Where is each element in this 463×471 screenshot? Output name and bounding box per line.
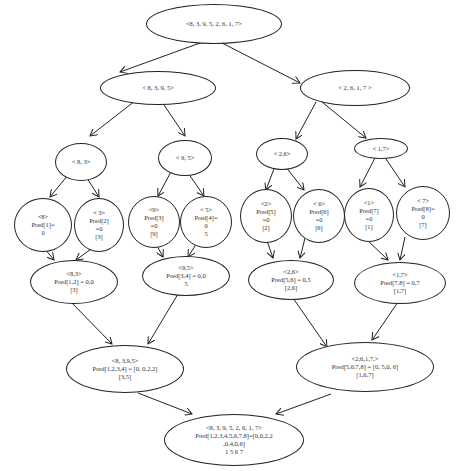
edge (296, 102, 316, 139)
node-pred-value: =0 (96, 225, 103, 233)
node-split-right: < 2, 6, 1, 7 > (300, 70, 410, 106)
node-lis: [3] (95, 233, 103, 241)
node-split-2-6: < 2,6> (256, 138, 308, 170)
edge (322, 102, 366, 138)
node-label: < 9, 5> (176, 154, 195, 162)
edge (266, 166, 275, 190)
node-root: <8, 3, 9, 5, 2, 6, 1, 7> (146, 4, 282, 44)
node-lis: 5 (204, 230, 207, 238)
node-label: < 2,6> (273, 150, 290, 158)
node-pred: Pred[2] (89, 217, 109, 225)
node-leaf-3: < 3> Pred[2] =0 [3] (74, 198, 124, 252)
node-lis: [3] (70, 286, 78, 294)
node-lis: [2,6] (285, 284, 297, 292)
node-label: < 8, 3, 9, 5> (142, 84, 174, 92)
node-label: <8, 3,9,5> (112, 357, 139, 365)
node-label: < 1,7> (372, 145, 389, 153)
node-pred: Pred[3,4] = 0,0 (166, 272, 205, 280)
node-leaf-8: <8> Pred[1]= 0 (14, 198, 72, 252)
edge (138, 393, 192, 414)
node-pred: Pred[1,2] = 0,0 (54, 278, 93, 286)
edge (120, 43, 200, 72)
node-lis: [9] (150, 230, 158, 238)
edge (158, 170, 172, 196)
edge (70, 301, 112, 344)
node-label: <1,7> (392, 271, 407, 279)
node-split-1-7: < 1,7> (354, 138, 408, 159)
node-pred: Pred[5,6] = 0,5 (271, 276, 310, 284)
node-merge-2-6: <2,6> Pred[5,6] = 0,5 [2,6] (248, 260, 334, 300)
edge (360, 156, 376, 187)
edge (285, 166, 304, 190)
node-pred: Pred[5,6,7,8] = [0, 5,0, 6] (332, 363, 399, 371)
node-final-result: <8, 3, 9, 5, 2, 6, 1, 7> Pred[1,2,3,4,5,… (164, 414, 304, 466)
edge (50, 175, 68, 197)
node-leaf-6: < 6> Pred[6] =0 [6] (293, 189, 345, 243)
node-pred-value: =0 (316, 216, 323, 224)
node-merge-9-5: <9,5> Pred[3,4] = 0,0 5 (142, 256, 230, 296)
edge (276, 394, 331, 414)
node-label: <2,6> (283, 268, 298, 276)
node-label: <8,3> (66, 270, 81, 278)
node-pred: Pred[5] (256, 208, 276, 216)
node-merge-2-6-1-7: <2,6,1,7,> Pred[5,6,7,8] = [0, 5,0, 6] [… (296, 342, 434, 392)
node-label: < 8, 3> (72, 158, 91, 166)
node-leaf-7: < 7> Pred[8]= 0 [7] (396, 186, 450, 240)
node-lis: [1] (365, 223, 373, 231)
node-lis: [7] (419, 221, 427, 229)
node-split-left: < 8, 3, 9, 5> (100, 71, 216, 105)
node-lis: [1,7] (394, 287, 406, 295)
edge (400, 237, 405, 260)
node-label: <2> (261, 200, 272, 208)
edge (372, 302, 398, 340)
node-lis: 5 (184, 280, 187, 288)
edge (384, 156, 405, 187)
node-split-8-3: < 8, 3> (55, 143, 107, 181)
node-split-9-5: < 9, 5> (158, 140, 212, 176)
node-label: <2,6,1,7,> (352, 355, 379, 363)
node-pred: Pred[1,2,3,4,5,6,7,8]=[0,0,2,2 (195, 432, 272, 440)
node-pred-cont: ,0,4,0,6] (223, 440, 245, 448)
edge (293, 298, 327, 347)
node-label: <8, 3, 9, 5, 2, 6, 1, 7> (186, 20, 242, 28)
node-pred: Pred[8]= (411, 205, 434, 213)
node-label: <8, 3, 9, 5, 2, 6, 1, 7> (206, 424, 262, 432)
node-pred-value: 0 (421, 213, 424, 221)
edge (162, 102, 185, 136)
node-merge-1-7: <1,7> Pred[7,8] = 0,7 [1,7] (354, 262, 446, 304)
node-pred: Pred[4]= (194, 214, 217, 222)
node-lis: [6] (315, 224, 323, 232)
node-leaf-5: < 5> Pred[4]= 0 5 (180, 196, 232, 248)
node-pred: Pred[7] (359, 207, 379, 215)
node-lis: 1 5 6 7 (225, 448, 243, 456)
node-pred: Pred[3] (144, 214, 164, 222)
node-label: <9,5> (178, 264, 193, 272)
node-pred: Pred[7,8] = 0,7 (380, 279, 419, 287)
node-pred-value: 0 (41, 229, 44, 237)
node-label: < 5> (200, 206, 212, 214)
node-lis: [2] (262, 224, 270, 232)
node-pred-value: =0 (366, 215, 373, 223)
node-pred: Pred[6] (309, 208, 329, 216)
node-pred-value: =0 (263, 216, 270, 224)
edge (300, 238, 305, 258)
node-label: < 2, 6, 1, 7 > (338, 84, 371, 92)
node-pred-value: =0 (151, 222, 158, 230)
edge (148, 294, 178, 344)
node-label: <9> (149, 206, 160, 214)
node-lis: [3,5] (119, 373, 131, 381)
node-label: <1> (364, 199, 375, 207)
node-pred: Pred[1,2,3,4] = [0, 0,2,2] (93, 365, 158, 373)
node-merge-8-3-9-5: <8, 3,9,5> Pred[1,2,3,4] = [0, 0,2,2] [3… (66, 345, 184, 393)
node-label: < 3> (93, 209, 105, 217)
node-lis: [1,6,7] (356, 371, 373, 379)
node-leaf-2: <2> Pred[5] =0 [2] (240, 189, 292, 243)
node-pred-value: 0 (204, 222, 207, 230)
node-label: < 7> (417, 197, 429, 205)
node-leaf-1: <1> Pred[7] =0 [1] (344, 188, 394, 242)
node-leaf-9: <9> Pred[3] =0 [9] (128, 196, 180, 248)
node-pred: Pred[1]= (31, 221, 54, 229)
edge (222, 43, 300, 83)
node-label: <8> (38, 213, 49, 221)
node-merge-8-3: <8,3> Pred[1,2] = 0,0 [3] (30, 260, 118, 304)
